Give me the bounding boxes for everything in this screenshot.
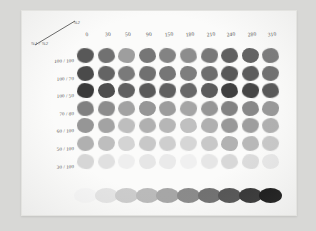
gradient-ellipse-9 (259, 188, 282, 203)
gradient-ellipse-5 (177, 188, 200, 203)
gradient-ellipse-1 (95, 188, 118, 203)
screenshot-root: %2 %1 / %2 0305090150180210240280310 100… (0, 0, 316, 231)
gradient-ellipse-2 (115, 188, 138, 203)
gradient-ellipse-4 (156, 188, 179, 203)
gradient-ellipse-8 (239, 188, 262, 203)
gradient-ellipse-6 (198, 188, 221, 203)
gradient-ellipse-0 (74, 188, 97, 203)
gradient-strip (22, 11, 296, 215)
test-sheet-paper: %2 %1 / %2 0305090150180210240280310 100… (21, 10, 297, 216)
gradient-ellipse-3 (136, 188, 159, 203)
gradient-ellipse-7 (218, 188, 241, 203)
